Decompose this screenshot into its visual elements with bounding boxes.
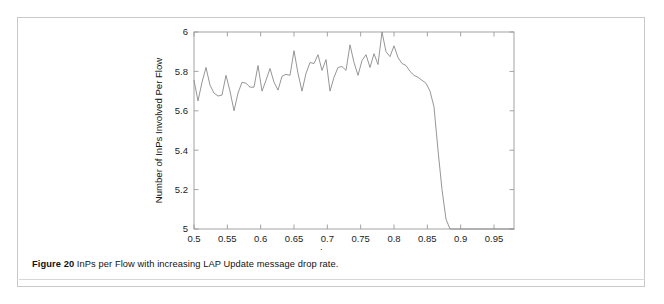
x-tick-label: 0.95 bbox=[485, 233, 504, 244]
figure-card: 0.50.550.60.650.70.750.80.850.90.95 55.2… bbox=[17, 17, 645, 287]
x-tick-label: 0.8 bbox=[387, 233, 400, 244]
line-chart: 0.50.550.60.650.70.750.80.850.90.95 55.2… bbox=[18, 18, 646, 250]
chart-area: 0.50.550.60.650.70.750.80.850.90.95 55.2… bbox=[18, 18, 646, 250]
y-tick-label: 5.6 bbox=[175, 105, 188, 116]
y-tick-label: 5.8 bbox=[175, 66, 188, 77]
y-tick-label: 5.4 bbox=[175, 145, 188, 156]
y-axis-title: Number of InPs Involved Per Flow bbox=[153, 58, 164, 204]
figure-caption-label: Figure 20 bbox=[32, 259, 74, 269]
caption-divider bbox=[19, 279, 645, 280]
x-tick-label: 0.85 bbox=[418, 233, 437, 244]
y-tick-label: 5 bbox=[183, 223, 188, 234]
x-axis-tick-labels: 0.50.550.60.650.70.750.80.850.90.95 bbox=[187, 233, 503, 244]
y-axis-tick-labels: 55.25.45.65.86 bbox=[175, 26, 188, 234]
x-tick-label: 0.75 bbox=[351, 233, 370, 244]
series-line bbox=[194, 32, 514, 229]
x-tick-label: 0.9 bbox=[454, 233, 467, 244]
y-tick-label: 5.2 bbox=[175, 184, 188, 195]
x-tick-label: 0.55 bbox=[218, 233, 237, 244]
x-tick-label: 0.7 bbox=[321, 233, 334, 244]
figure-caption: Figure 20 InPs per Flow with increasing … bbox=[32, 258, 632, 270]
x-tick-label: 0.65 bbox=[285, 233, 304, 244]
x-tick-label: 0.6 bbox=[254, 233, 267, 244]
page-root: 0.50.550.60.650.70.750.80.850.90.95 55.2… bbox=[0, 0, 664, 304]
x-axis-ticks bbox=[194, 32, 494, 229]
figure-caption-text: InPs per Flow with increasing LAP Update… bbox=[74, 259, 338, 269]
x-axis-title: LAP Update Message Drop Rate bbox=[284, 247, 424, 250]
x-tick-label: 0.5 bbox=[187, 233, 200, 244]
y-tick-label: 6 bbox=[183, 26, 188, 37]
data-series-line bbox=[194, 32, 514, 229]
